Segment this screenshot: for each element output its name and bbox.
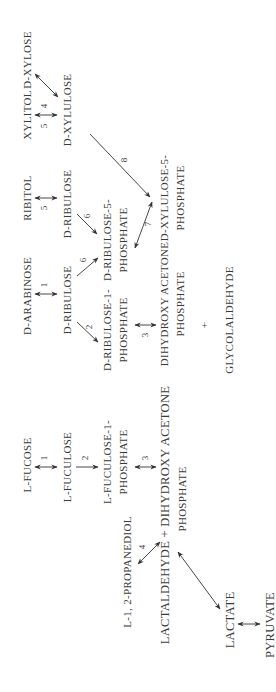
compound-d-ribulose-right: D-RIBULOSE	[61, 170, 73, 238]
step-number: 6	[78, 257, 88, 262]
compound-d-ribulose-5-phosphate: D-RIBULOSE-5-	[101, 199, 113, 281]
step-number: 4	[39, 103, 49, 108]
compound-d-ribulose-5-phosphate-line2: PHOSPHATE	[117, 207, 129, 272]
compound-ribitol: RIBITOL	[21, 175, 33, 220]
step-number: 2	[84, 325, 94, 330]
compound-glycolaldehyde: GLYCOLALDEHYDE	[223, 266, 235, 374]
plus-sign: +	[198, 322, 210, 329]
compound-l-fuculose-1-phosphate-line2: PHOSPHATE	[117, 429, 129, 494]
step-number: 3	[140, 455, 150, 460]
step-number: 6	[82, 213, 92, 218]
step-number: 7	[143, 221, 153, 226]
compound-d-xylulose-5-phosphate-line2: PHOSPHATE	[174, 165, 186, 230]
compound-d-xylose: D-XYLOSE	[21, 31, 33, 88]
step-number: 2	[80, 456, 90, 461]
compound-pyruvate: PYRUVATE	[263, 592, 276, 658]
arrow-xylulose-xylulose-5-phosphate	[90, 134, 150, 197]
step-number: 5	[39, 123, 49, 128]
compound-d-ribulose-1-phosphate: D-RIBULOSE-1-	[101, 289, 113, 371]
compound-l-fuculose: L-FUCULOSE	[61, 432, 73, 502]
compound-l-fucose: L-FUCOSE	[21, 438, 33, 493]
step-number: 3	[140, 332, 150, 337]
compound-d-ribulose-1-phosphate-line2: PHOSPHATE	[117, 297, 129, 362]
compound-lactate: LACTATE	[223, 592, 237, 649]
compound-dihydroxyacetone-phosphate-line2: PHOSPHATE	[174, 271, 186, 336]
compound-d-xylulose: D-XYLULOSE	[61, 74, 73, 147]
arrow-lactaldehyde-lactate	[178, 552, 220, 609]
step-number: 1	[39, 456, 49, 461]
compound-l-1-2-propanediol: L-1, 2-PROPANEDIOL	[121, 516, 133, 627]
compound-dihydroxyacetone-phosphate: DIHYDROXY ACETONE	[158, 242, 170, 367]
pathway-diagram: D-XYLOSE XYLITOL D-XYLULOSE 4 5 8 RIBITO…	[0, 0, 276, 692]
compound-d-xylulose-5-phosphate: D-XYLULOSE-5-	[158, 155, 170, 241]
step-number: 4	[137, 544, 147, 549]
step-number: 5	[39, 205, 49, 210]
compound-d-ribulose-left: D-RIBULOSE	[61, 266, 73, 334]
arrow-xylose-xylulose	[35, 74, 58, 97]
compound-l-fuculose-1-phosphate: L-FUCULOSE-1-	[101, 420, 113, 504]
compound-d-arabinose: D-ARABINOSE	[21, 257, 33, 335]
step-number: 1	[39, 283, 49, 288]
compound-lactaldehyde-dihydroxyacetone: LACTALDEHYDE + DIHYDROXY ACETONE	[158, 386, 172, 644]
compound-xylitol: XYLITOL	[21, 90, 33, 140]
step-number: 8	[119, 157, 129, 162]
compound-lactaldehyde-dihydroxyacetone-line2: PHOSPHATE	[176, 466, 188, 531]
